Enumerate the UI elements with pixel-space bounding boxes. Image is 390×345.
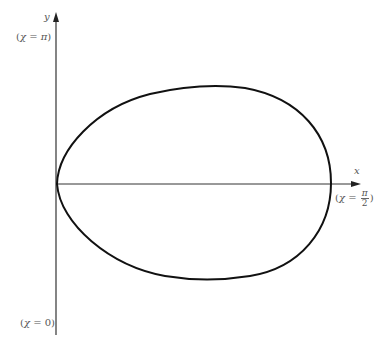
x-axis-label: x <box>354 166 360 176</box>
annotation-chi-pi: (χ = π) <box>16 32 51 42</box>
y-axis-label: y <box>44 12 50 22</box>
x-axis-arrow-icon <box>351 181 361 187</box>
paren-close: ) <box>370 192 374 203</box>
annotation-chi-pi-half: (χ = π2) <box>335 189 374 209</box>
paren-close: ) <box>47 31 51 42</box>
diagram-canvas <box>0 0 390 345</box>
paren-close: ) <box>51 317 55 328</box>
denominator: 2 <box>362 199 368 208</box>
polar-curve <box>57 86 331 279</box>
equals: = <box>26 31 41 42</box>
y-axis-arrow-icon <box>53 12 59 22</box>
equals: = <box>345 192 360 203</box>
fraction-pi-over-2: π2 <box>361 189 369 209</box>
annotation-chi-zero: (χ = 0) <box>20 318 55 328</box>
equals: = <box>30 317 45 328</box>
